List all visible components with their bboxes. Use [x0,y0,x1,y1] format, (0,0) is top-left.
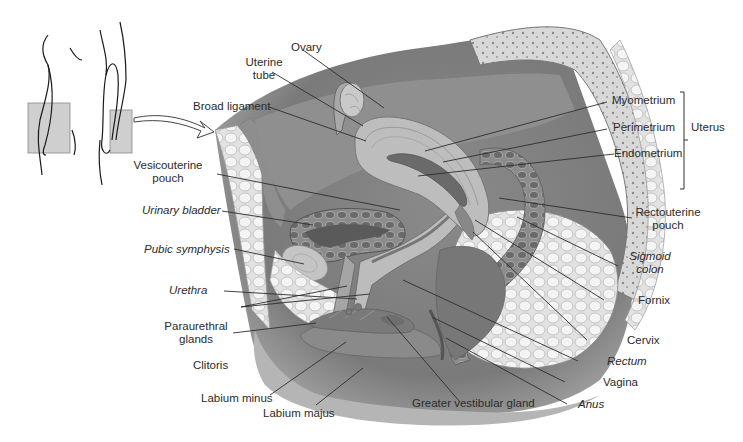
label-sigmoid-colon: Sigmoid colon [625,250,675,276]
label-uterus: Uterus [691,121,725,134]
label-urethra: Urethra [169,284,207,297]
locator-figure [28,22,132,185]
label-vagina: Vagina [603,376,638,389]
label-rectouterine-line1: Rectouterine [628,206,708,219]
label-rectouterine-line2: pouch [628,219,708,232]
label-labium-minus: Labium minus [201,392,273,405]
label-fornix: Fornix [638,294,670,307]
label-pubic-symphysis: Pubic symphysis [144,243,230,256]
pelvic-section [215,27,665,426]
label-broad-ligament: Broad ligament [193,100,270,113]
label-rectouterine-pouch: Rectouterine pouch [628,206,708,232]
label-vesicouterine-line1: Vesicouterine [128,159,208,172]
label-paraurethral-line1: Paraurethral [156,320,236,333]
label-ovary: Ovary [291,41,322,54]
label-clitoris: Clitoris [193,359,228,372]
label-vesicouterine-pouch: Vesicouterine pouch [128,159,208,185]
label-labium-majus: Labium majus [263,407,335,420]
label-paraurethral-glands: Paraurethral glands [156,320,236,346]
uterus-bracket [680,92,688,189]
locator-arrow [134,116,214,138]
label-myometrium: Myometrium [612,94,675,107]
label-vesicouterine-line2: pouch [128,172,208,185]
label-perimetrium: Perimetrium [613,121,675,134]
label-sigmoid-line1: Sigmoid [625,250,675,263]
label-sigmoid-line2: colon [625,263,675,276]
label-uterine-tube: Uterine tube [244,56,284,82]
label-uterine-tube-line2: tube [244,69,284,82]
label-cervix: Cervix [627,334,660,347]
label-rectum: Rectum [607,355,647,368]
label-greater-vestibular-gland: Greater vestibular gland [412,397,535,410]
label-endometrium: Endometrium [614,147,682,160]
label-paraurethral-line2: glands [156,333,236,346]
label-urinary-bladder: Urinary bladder [142,204,221,217]
label-anus: Anus [578,398,604,411]
anatomy-figure: Ovary Uterine tube Broad ligament Vesico… [0,0,743,442]
label-uterine-tube-line1: Uterine [244,56,284,69]
